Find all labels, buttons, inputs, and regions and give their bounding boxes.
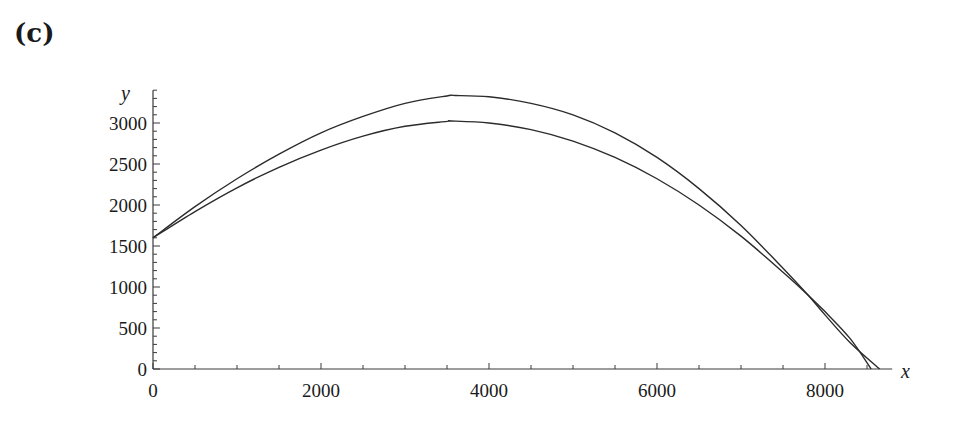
y-tick-label: 1500: [109, 236, 147, 257]
x-tick-label: 6000: [638, 380, 676, 401]
y-tick-label: 2500: [109, 154, 147, 175]
upper-trajectory-curve: [153, 95, 880, 369]
curves: [153, 95, 880, 369]
x-axis-label: x: [900, 360, 910, 382]
y-tick-label: 3000: [109, 113, 147, 134]
y-tick-label: 500: [119, 318, 148, 339]
x-tick-label: 0: [148, 380, 158, 401]
axes: [153, 90, 892, 369]
lower-trajectory-curve: [153, 121, 871, 369]
y-axis-label: y: [119, 82, 130, 105]
ticks: [153, 90, 867, 369]
x-tick-label: 8000: [806, 380, 844, 401]
tick-labels: 0200040006000800005001000150020002500300…: [109, 113, 844, 401]
trajectory-chart: 0200040006000800005001000150020002500300…: [0, 0, 962, 433]
x-tick-label: 4000: [470, 380, 508, 401]
y-tick-label: 0: [138, 359, 148, 380]
x-tick-label: 2000: [302, 380, 340, 401]
y-tick-label: 2000: [109, 195, 147, 216]
y-tick-label: 1000: [109, 277, 147, 298]
